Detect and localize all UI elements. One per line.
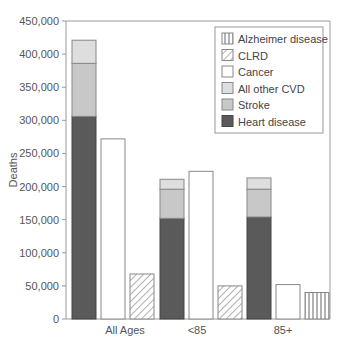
- x-category-label: All Ages: [105, 324, 145, 336]
- y-tick-label: 100,000: [19, 247, 59, 259]
- y-tick-label: 0: [53, 313, 59, 325]
- bar-segment-heart-disease: [72, 116, 96, 319]
- legend-swatch-alzheimer-disease: [222, 33, 233, 44]
- y-axis-ticks: 050,000100,000150,000200,000250,000300,0…: [19, 15, 66, 325]
- y-tick-label: 300,000: [19, 114, 59, 126]
- legend-label: Heart disease: [238, 116, 306, 128]
- x-axis-categories: All Ages<8585+: [105, 324, 292, 336]
- bar-cancer: [101, 139, 125, 319]
- legend-swatch-clrd: [222, 50, 233, 61]
- y-tick-label: 50,000: [25, 280, 59, 292]
- y-tick-label: 150,000: [19, 214, 59, 226]
- bar-segment-stroke: [160, 189, 184, 218]
- y-axis-label: Deaths: [7, 152, 19, 187]
- x-category-label: <85: [188, 324, 207, 336]
- bar-cancer: [189, 171, 213, 319]
- y-tick-label: 450,000: [19, 15, 59, 27]
- legend-label: CLRD: [238, 50, 268, 62]
- bar-alzheimer-disease: [305, 293, 329, 319]
- bar-segment-all-other-cvd: [247, 178, 271, 189]
- bar-segment-all-other-cvd: [160, 179, 184, 189]
- y-tick-label: 200,000: [19, 181, 59, 193]
- legend-swatch-all-other-cvd: [222, 83, 233, 94]
- bar-segment-stroke: [247, 189, 271, 217]
- bar-chart: 050,000100,000150,000200,000250,000300,0…: [0, 0, 343, 342]
- y-tick-label: 250,000: [19, 147, 59, 159]
- legend-swatch-stroke: [222, 99, 233, 110]
- legend: Alzheimer diseaseCLRDCancerAll other CVD…: [215, 27, 328, 133]
- bar-segment-heart-disease: [247, 217, 271, 319]
- bar-cancer: [276, 285, 300, 319]
- bar-segment-all-other-cvd: [72, 40, 96, 63]
- bar-segment-heart-disease: [160, 218, 184, 319]
- legend-label: All other CVD: [238, 83, 305, 95]
- legend-label: Cancer: [238, 66, 274, 78]
- bar-clrd: [218, 286, 242, 319]
- y-tick-label: 400,000: [19, 48, 59, 60]
- legend-label: Alzheimer disease: [238, 33, 328, 45]
- bar-segment-stroke: [72, 63, 96, 116]
- legend-swatch-heart-disease: [222, 116, 233, 127]
- y-tick-label: 350,000: [19, 81, 59, 93]
- legend-label: Stroke: [238, 99, 270, 111]
- bar-clrd: [130, 274, 154, 319]
- legend-swatch-cancer: [222, 66, 233, 77]
- x-category-label: 85+: [274, 324, 293, 336]
